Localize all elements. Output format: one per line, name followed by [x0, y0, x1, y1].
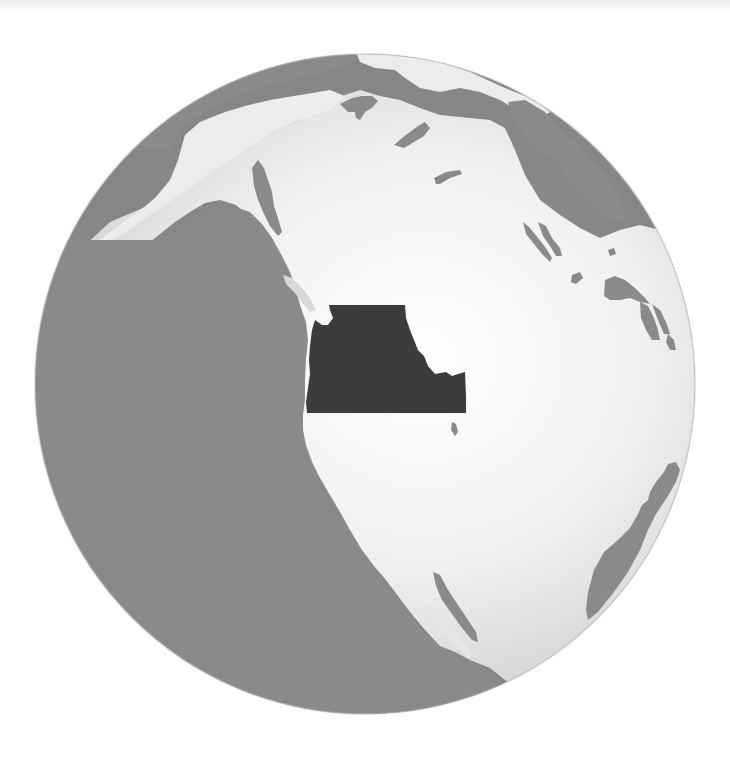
globe-svg — [0, 0, 730, 770]
locator-map — [0, 0, 730, 770]
